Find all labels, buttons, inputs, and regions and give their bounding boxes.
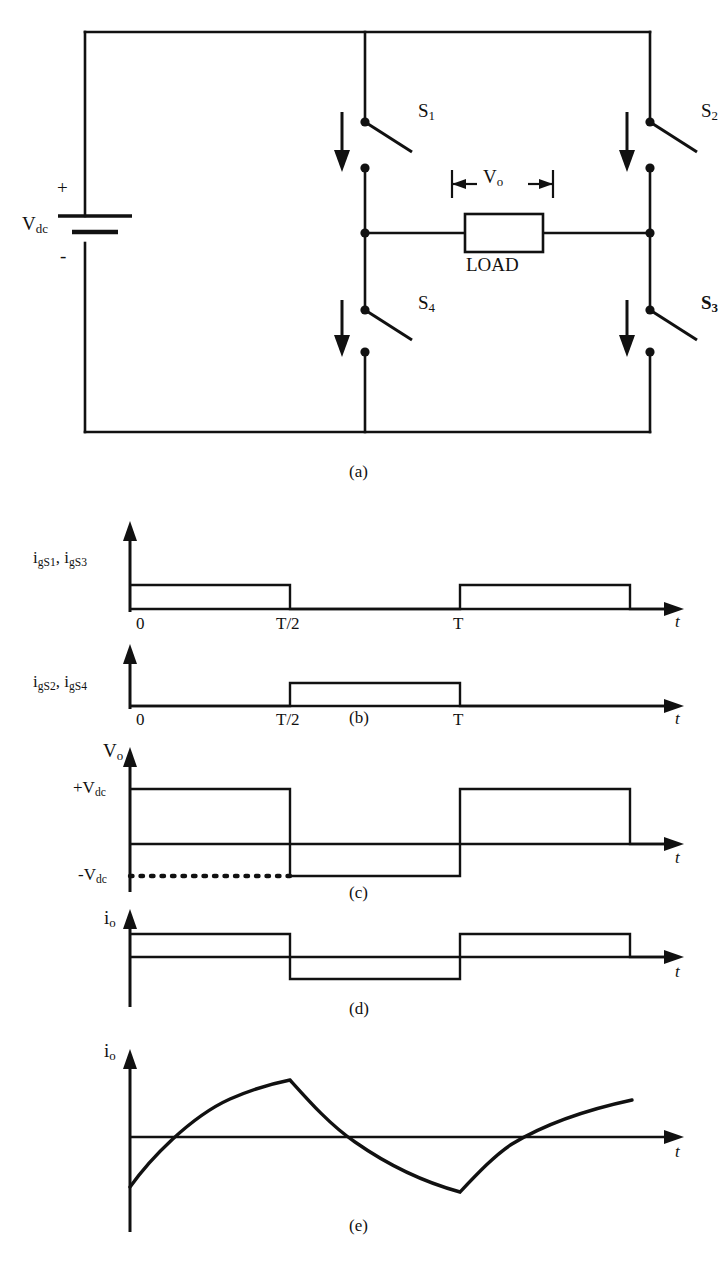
switch-s1[interactable] xyxy=(360,117,412,172)
chart-e-y-arrowhead xyxy=(123,1049,137,1069)
switch-s2[interactable] xyxy=(645,117,697,172)
chart-b2-x-label: t xyxy=(675,710,680,727)
chart-e xyxy=(123,1049,684,1232)
current-arrow-s2 xyxy=(619,112,635,172)
chart-b2-y-label: igS2, igS4 xyxy=(33,673,87,692)
polarity-minus-label: - xyxy=(60,246,66,265)
switch-s1-label: S1 xyxy=(418,101,435,123)
chart-c-ytick-minus-vdc: -Vdc xyxy=(78,866,107,885)
panel-caption-a: (a) xyxy=(349,463,368,480)
chart-c-y-label: Vo xyxy=(103,741,123,763)
chart-c-x-label: t xyxy=(675,849,680,866)
chart-b2-xtick-0: 0 xyxy=(136,711,145,728)
load-resistor-box xyxy=(465,214,543,252)
chart-b1-xtick-0: 0 xyxy=(136,615,145,632)
switch-s3-blade xyxy=(650,310,697,340)
switch-s1-node-bottom xyxy=(360,163,369,172)
chart-d-y-label: io xyxy=(104,908,116,930)
chart-b2-xtick-thalf: T/2 xyxy=(276,711,300,728)
switch-s4-node-bottom xyxy=(360,347,369,356)
panel-caption-d: (d) xyxy=(349,1000,369,1017)
chart-b1-xtick-thalf: T/2 xyxy=(276,615,300,632)
current-arrow-s3 xyxy=(619,300,635,357)
switch-s3[interactable] xyxy=(645,305,697,356)
switch-s4-blade xyxy=(365,310,412,340)
chart-b1-y-arrowhead xyxy=(123,521,137,541)
switch-s3-label: S3 xyxy=(701,293,718,315)
chart-b2 xyxy=(123,644,684,713)
chart-b1-xtick-t: T xyxy=(453,615,463,632)
chart-b2-y-arrowhead xyxy=(123,644,137,664)
switch-s2-label: S2 xyxy=(701,101,718,123)
figure-root: Vdc + - S1 S2 S4 S3 Vo LOAD (a) xyxy=(0,0,726,1277)
chart-b2-xtick-t: T xyxy=(453,711,463,728)
chart-b1 xyxy=(123,521,684,616)
switch-s3-node-bottom xyxy=(645,347,654,356)
chart-c xyxy=(123,747,684,892)
waveforms-panel xyxy=(0,487,726,1277)
switch-s4[interactable] xyxy=(360,305,412,356)
chart-b1-trace xyxy=(130,585,672,609)
dc-source-label: Vdc xyxy=(22,214,48,236)
circuit-diagram-a xyxy=(0,0,726,480)
chart-c-ytick-plus-vdc: +Vdc xyxy=(73,779,106,798)
node-right-midpoint xyxy=(645,228,654,237)
vo-label: Vo xyxy=(483,167,503,189)
chart-b1-x-label: t xyxy=(675,613,680,630)
dc-source-symbol xyxy=(58,216,132,232)
chart-b2-trace xyxy=(130,683,672,706)
vo-arrowhead-left xyxy=(452,179,466,189)
chart-e-x-label: t xyxy=(675,1143,680,1160)
chart-d-x-label: t xyxy=(675,963,680,980)
switch-s1-blade xyxy=(365,122,412,152)
switch-s4-label: S4 xyxy=(418,293,435,315)
node-left-midpoint xyxy=(360,228,369,237)
chart-e-x-arrowhead xyxy=(664,1130,684,1144)
chart-d-y-arrowhead xyxy=(123,909,137,929)
load-label: LOAD xyxy=(466,255,519,274)
vo-arrowhead-right xyxy=(539,179,553,189)
panel-caption-c: (c) xyxy=(349,884,368,901)
chart-c-y-arrowhead xyxy=(123,747,137,767)
switch-s2-node-bottom xyxy=(645,163,654,172)
chart-d xyxy=(123,909,684,1007)
panel-caption-e: (e) xyxy=(349,1217,368,1234)
current-arrow-s4 xyxy=(334,300,350,357)
polarity-plus-label: + xyxy=(57,178,68,197)
panel-caption-b: (b) xyxy=(349,709,369,726)
chart-e-y-label: io xyxy=(104,1041,116,1063)
chart-c-trace xyxy=(130,789,672,876)
switch-s2-blade xyxy=(650,122,697,152)
chart-b1-y-label: igS1, igS3 xyxy=(33,549,87,568)
current-arrow-s1 xyxy=(334,112,350,172)
